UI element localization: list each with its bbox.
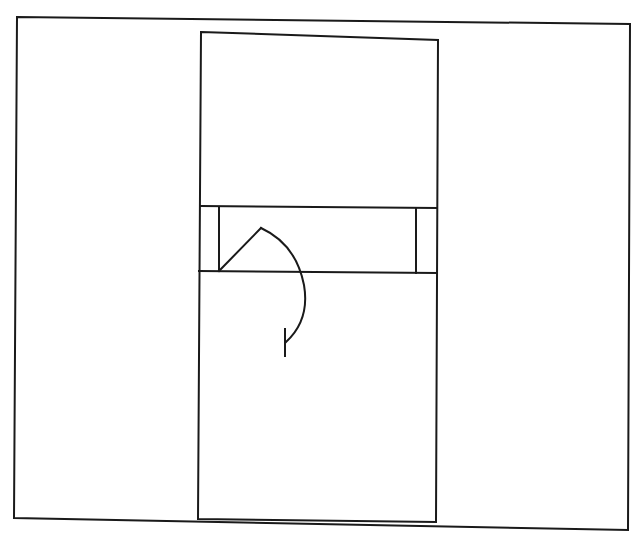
door-leaf [219, 228, 261, 271]
door-swing-arc [261, 228, 305, 342]
outer-frame [14, 17, 630, 530]
band-top-line [201, 206, 437, 208]
diagram-svg [0, 0, 640, 542]
diagram-canvas [0, 0, 640, 542]
band-bottom-line [199, 271, 437, 273]
inner-rectangle [198, 32, 438, 522]
